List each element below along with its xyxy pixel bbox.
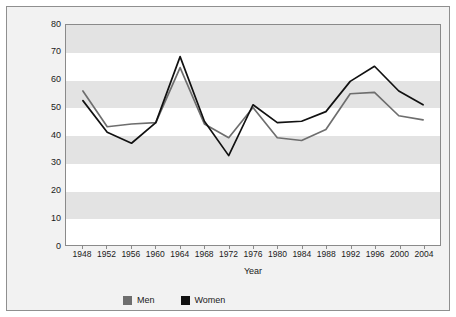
x-axis-tick-labels: 1948195219561960196419681972197619801984… [65,249,441,263]
y-tick-10: 10 [35,214,61,223]
legend-label: Men [137,296,155,305]
legend-item-women[interactable]: Women [181,296,226,305]
y-tick-30: 30 [35,158,61,167]
figure-frame: Percent of the Two-Party Vote for the De… [6,6,450,311]
x-axis-title: Year [65,266,441,276]
chart-legend: MenWomen [65,292,441,308]
chart-screenshot: Percent of the Two-Party Vote for the De… [0,0,456,317]
y-tick-70: 70 [35,47,61,56]
y-tick-0: 0 [35,242,61,251]
y-axis-tick-labels: 01020304050607080 [33,24,61,246]
x-tick-2004: 2004 [404,249,444,259]
y-tick-80: 80 [35,20,61,29]
legend-item-men[interactable]: Men [123,296,155,305]
y-tick-50: 50 [35,103,61,112]
line-series-women [83,57,423,156]
y-tick-20: 20 [35,186,61,195]
legend-label: Women [195,296,226,305]
series-lines [66,25,440,245]
y-tick-60: 60 [35,75,61,84]
legend-swatch-icon [123,296,132,305]
plot-area [65,24,441,246]
y-tick-40: 40 [35,131,61,140]
legend-swatch-icon [181,296,190,305]
